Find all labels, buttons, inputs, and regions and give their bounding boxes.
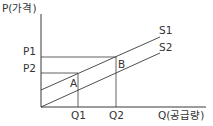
s2-curve — [41, 53, 160, 107]
point-b-label: B — [118, 59, 125, 70]
s1-label: S1 — [159, 25, 172, 36]
s2-label: S2 — [159, 42, 172, 53]
p1-label: P1 — [23, 46, 36, 57]
q1-label: Q1 — [71, 110, 86, 121]
y-axis-label: P(가격) — [2, 3, 37, 14]
q2-label: Q2 — [109, 110, 124, 121]
s1-curve — [41, 37, 160, 90]
x-axis-label: Q(공급량) — [158, 110, 204, 121]
p2-label: P2 — [23, 63, 36, 74]
point-a-label: A — [70, 78, 77, 89]
